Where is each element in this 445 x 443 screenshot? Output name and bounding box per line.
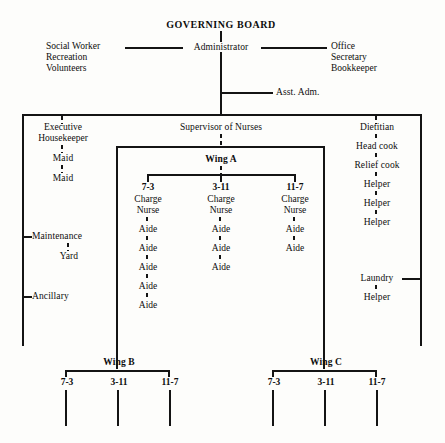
wing-a-shift-11-7-role: Charge Nurse — [281, 194, 308, 216]
wing-a-shift-11-7-title: 11-7 — [287, 182, 304, 192]
maintenance-label: Maintenance — [32, 231, 82, 242]
housekeeper-to-maid1-line — [61, 145, 63, 153]
wing-c-bracket-bar — [272, 370, 377, 372]
social-worker-group: Social Worker Recreation Volunteers — [46, 41, 100, 75]
wing-c-7-3-drop — [272, 390, 274, 426]
dietary-helper-2-label: Helper — [364, 198, 390, 209]
helper2-to-helper3-line — [375, 210, 377, 217]
admin-to-office-line — [261, 47, 327, 49]
head-cook-label: Head cook — [356, 141, 398, 152]
yard-label: Yard — [60, 251, 78, 262]
wing-b-shift-11-7-title: 11-7 — [162, 377, 179, 387]
wing-a-11-7-aide-2: Aide — [286, 243, 304, 253]
supervisor-of-nurses-label: Supervisor of Nurses — [180, 122, 262, 133]
wing-c-3-11-drop — [324, 390, 326, 426]
wing-a-box-right-edge — [323, 146, 325, 359]
wing-a-shift-7-3-role: Charge Nurse — [134, 194, 161, 216]
wing-b-7-3-drop — [65, 390, 67, 426]
supervisor-to-wing-a-line — [220, 134, 222, 146]
wing-a-7-3-aide-3: Aide — [139, 262, 157, 272]
charge-label: Charge — [134, 194, 161, 205]
wing-a-bracket-mid-drop — [220, 174, 222, 182]
dietary-helper-1-label: Helper — [364, 179, 390, 190]
wing-c-bracket-right-drop — [375, 370, 377, 377]
social-worker-label: Social Worker — [46, 41, 100, 52]
wing-a-shift-3-11-role: Charge Nurse — [207, 194, 234, 216]
secretary-label: Secretary — [331, 52, 377, 63]
ancillary-tick-line — [22, 296, 32, 298]
nurse-label: Nurse — [207, 205, 234, 216]
wing-a-stem — [220, 166, 222, 174]
wing-a-3-11-aide-3: Aide — [212, 262, 230, 272]
nurse-label: Nurse — [281, 205, 308, 216]
org-chart: GOVERNING BOARD Administrator Social Wor… — [0, 0, 445, 443]
wing-b-11-7-drop — [169, 390, 171, 426]
wing-a-7-3-aide-4: Aide — [139, 281, 157, 291]
executive-housekeeper-group: Executive Housekeeper — [38, 122, 88, 144]
wing-a-bracket-left-drop — [147, 174, 149, 182]
maid-1-label: Maid — [53, 153, 73, 164]
relief-cook-label: Relief cook — [354, 160, 399, 171]
maid-2-label: Maid — [53, 173, 73, 184]
head-cook-to-relief-cook-line — [375, 153, 377, 160]
main-box-right-stub — [420, 334, 422, 346]
laundry-tick-line — [402, 278, 421, 280]
main-box-right-edge — [420, 114, 422, 334]
wing-a-7-3-aide-5: Aide — [139, 300, 157, 310]
wing-b-shift-7-3-title: 7-3 — [61, 377, 74, 387]
dietitian-label: Dietitian — [360, 122, 394, 133]
wing-c-11-7-drop — [376, 390, 378, 426]
bookkeeper-label: Bookkeeper — [331, 63, 377, 74]
helper1-to-helper2-line — [375, 191, 377, 198]
main-box-left-stub — [22, 334, 24, 346]
wing-b-bracket-right-drop — [168, 370, 170, 377]
wing-b-3-11-drop — [117, 390, 119, 426]
wing-c-shift-3-11-title: 3-11 — [318, 377, 335, 387]
wing-c-label: Wing C — [310, 357, 342, 368]
wing-b-stem — [116, 359, 118, 369]
dietary-helper-3-label: Helper — [364, 217, 390, 228]
wing-b-label: Wing B — [103, 357, 134, 368]
wing-b-bracket-bar — [65, 370, 170, 372]
laundry-helper-label: Helper — [364, 292, 390, 303]
admin-trunk-line — [220, 52, 222, 115]
wing-a-bracket-right-drop — [294, 174, 296, 182]
office-label: Office — [331, 41, 377, 52]
main-box-left-edge — [22, 114, 24, 334]
wing-a-box-left-edge — [116, 146, 118, 359]
laundry-label: Laundry — [361, 273, 394, 284]
office-group: Office Secretary Bookkeeper — [331, 41, 377, 75]
housekeeper-label: Housekeeper — [38, 133, 88, 144]
board-to-admin-line — [220, 31, 222, 42]
wing-c-bracket-left-drop — [272, 370, 274, 377]
asst-adm-branch-line — [221, 92, 273, 94]
wing-a-11-7-aide-link-1 — [293, 217, 295, 224]
charge-label: Charge — [207, 194, 234, 205]
wing-a-shift-7-3-title: 7-3 — [142, 182, 155, 192]
wing-a-11-7-aide-1: Aide — [286, 224, 304, 234]
main-box-top-bar — [22, 114, 422, 116]
recreation-label: Recreation — [46, 52, 100, 63]
wing-c-shift-11-7-title: 11-7 — [369, 377, 386, 387]
wing-b-shift-3-11-title: 3-11 — [111, 377, 128, 387]
wing-a-3-11-aide-link-2 — [219, 236, 221, 243]
wing-a-11-7-aide-link-2 — [293, 236, 295, 243]
wing-a-box-top — [116, 146, 325, 148]
wing-a-7-3-aide-link-3 — [146, 255, 148, 262]
charge-label: Charge — [281, 194, 308, 205]
wing-a-3-11-aide-link-3 — [219, 255, 221, 262]
ancillary-label: Ancillary — [32, 291, 69, 302]
wing-a-3-11-aide-2: Aide — [212, 243, 230, 253]
wing-a-7-3-aide-link-2 — [146, 236, 148, 243]
dietitian-to-head-cook-line — [375, 134, 377, 141]
wing-c-shift-7-3-title: 7-3 — [268, 377, 281, 387]
nurse-label: Nurse — [134, 205, 161, 216]
wing-a-7-3-aide-link-4 — [146, 274, 148, 281]
executive-label: Executive — [38, 122, 88, 133]
maid1-to-maid2-line — [61, 165, 63, 173]
maintenance-tick-line — [22, 236, 32, 238]
wing-a-label: Wing A — [205, 154, 236, 165]
wing-a-7-3-aide-1: Aide — [139, 224, 157, 234]
maintenance-to-yard-line — [67, 243, 69, 251]
wing-a-7-3-aide-link-5 — [146, 293, 148, 300]
